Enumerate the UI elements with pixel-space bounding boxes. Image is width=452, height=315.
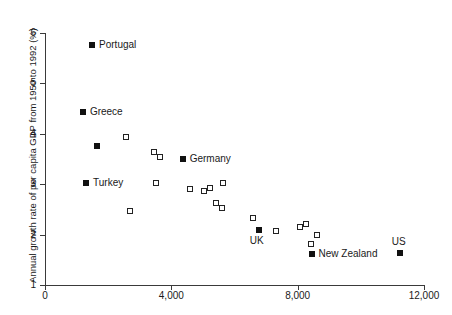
data-point[interactable] bbox=[94, 143, 100, 149]
y-axis-line bbox=[45, 33, 46, 286]
data-point-germany[interactable] bbox=[180, 156, 186, 162]
y-tick-mark bbox=[40, 184, 45, 185]
y-tick-label: 5 bbox=[0, 78, 36, 88]
data-point[interactable] bbox=[220, 180, 226, 186]
y-tick-mark bbox=[40, 235, 45, 236]
data-point-label: Turkey bbox=[93, 178, 123, 188]
y-tick-label: 2 bbox=[0, 230, 36, 240]
data-point[interactable] bbox=[219, 205, 225, 211]
x-tick-label: 4,000 bbox=[141, 291, 201, 301]
data-point[interactable] bbox=[303, 221, 309, 227]
data-point[interactable] bbox=[201, 188, 207, 194]
chart-canvas: Annual growth rate of per capita GDP fro… bbox=[0, 0, 452, 315]
data-point-label: Greece bbox=[90, 107, 123, 117]
data-point-us[interactable] bbox=[397, 250, 403, 256]
y-tick-mark bbox=[40, 33, 45, 34]
x-tick-label: 0 bbox=[15, 291, 75, 301]
data-point-new-zealand[interactable] bbox=[309, 251, 315, 257]
y-tick-label: 4 bbox=[0, 129, 36, 139]
data-point-label: New Zealand bbox=[319, 249, 378, 259]
data-point[interactable] bbox=[207, 185, 213, 191]
data-point[interactable] bbox=[127, 208, 133, 214]
x-tick-label: 12,000 bbox=[394, 291, 452, 301]
y-tick-mark bbox=[40, 83, 45, 84]
data-point-portugal[interactable] bbox=[89, 42, 95, 48]
y-tick-label: 3 bbox=[0, 179, 36, 189]
y-tick-label: 1 bbox=[0, 280, 36, 290]
data-point[interactable] bbox=[250, 215, 256, 221]
data-point-label: Portugal bbox=[99, 40, 136, 50]
data-point[interactable] bbox=[157, 154, 163, 160]
data-point[interactable] bbox=[123, 134, 129, 140]
data-point[interactable] bbox=[187, 186, 193, 192]
data-point-greece[interactable] bbox=[80, 109, 86, 115]
data-point-label: UK bbox=[250, 236, 264, 246]
y-tick-label: 6 bbox=[0, 28, 36, 38]
y-tick-mark bbox=[40, 134, 45, 135]
x-tick-label: 8,000 bbox=[268, 291, 328, 301]
data-point-label: Germany bbox=[190, 154, 231, 164]
data-point-turkey[interactable] bbox=[83, 180, 89, 186]
x-axis-line bbox=[45, 285, 425, 286]
data-point[interactable] bbox=[308, 241, 314, 247]
data-point[interactable] bbox=[273, 228, 279, 234]
data-point[interactable] bbox=[153, 180, 159, 186]
data-point[interactable] bbox=[297, 224, 303, 230]
data-point-uk[interactable] bbox=[256, 227, 262, 233]
data-point-label: US bbox=[392, 237, 406, 247]
data-point[interactable] bbox=[314, 232, 320, 238]
y-axis-title: Annual growth rate of per capita GDP fro… bbox=[27, 6, 38, 306]
